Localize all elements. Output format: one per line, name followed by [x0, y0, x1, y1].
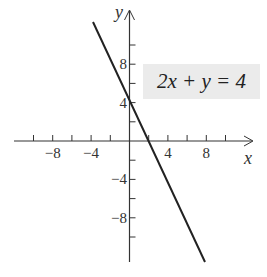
y-tick-label: −4: [111, 171, 127, 187]
x-axis-label: x: [243, 148, 252, 168]
x-tick-label: −8: [45, 145, 61, 161]
y-tick-label: 4: [120, 95, 128, 111]
y-tick-label: 8: [120, 56, 128, 72]
x-tick-label: 4: [164, 145, 172, 161]
y-axis-label: y: [113, 2, 123, 22]
chart-canvas: −8 −4 4 8 8 4 −4 −8 x y: [0, 0, 267, 277]
equation-label: 2x + y = 4: [143, 64, 260, 99]
y-tick-label: −8: [111, 210, 127, 226]
line-2x-plus-y-eq-4: [93, 22, 205, 262]
x-tick-label: −4: [83, 145, 99, 161]
x-tick-label: 8: [203, 145, 211, 161]
